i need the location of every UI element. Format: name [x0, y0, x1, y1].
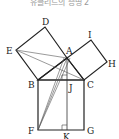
line-ec [16, 50, 84, 80]
right-angle-j [62, 75, 67, 80]
label-h: H [108, 59, 116, 69]
label-d: D [42, 17, 49, 27]
label-b: B [28, 80, 35, 90]
label-e: E [6, 46, 13, 56]
pythagoras-diagram: D E A I H B C J F G K [0, 0, 119, 139]
label-k: K [63, 132, 70, 139]
square-achi [67, 40, 107, 80]
label-i: I [88, 30, 92, 40]
line-ea [16, 50, 67, 58]
label-g: G [87, 126, 94, 136]
point-a-dot [66, 57, 68, 59]
label-f: F [28, 126, 34, 136]
line-fa2 [38, 58, 64, 130]
label-c: C [87, 80, 94, 90]
right-angle-k [62, 125, 67, 130]
square-bcgf [38, 80, 84, 130]
label-a: A [65, 46, 73, 56]
label-j: J [68, 83, 73, 93]
line-bc-thin [38, 58, 70, 130]
